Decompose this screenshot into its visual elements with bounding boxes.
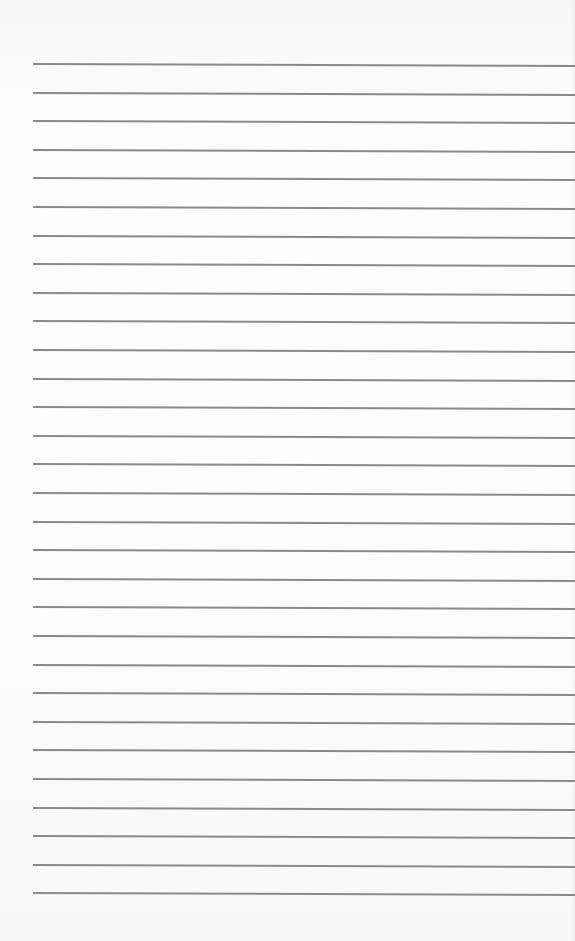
ruled-line: [33, 63, 575, 67]
ruled-line: [33, 235, 575, 239]
ruled-line: [33, 177, 575, 181]
ruled-line: [33, 664, 575, 668]
lined-paper-sheet: [0, 0, 575, 941]
ruled-line: [33, 835, 575, 839]
ruled-line: [33, 892, 575, 896]
ruled-line: [33, 692, 575, 696]
ruled-line: [33, 463, 575, 467]
ruled-line: [33, 778, 575, 782]
ruled-line: [33, 349, 575, 353]
ruled-line: [33, 721, 575, 725]
ruled-line: [33, 521, 575, 525]
ruled-line: [33, 635, 575, 639]
ruled-line: [33, 320, 575, 324]
ruled-line: [33, 263, 575, 267]
ruled-line: [33, 292, 575, 296]
ruled-line: [33, 406, 575, 410]
ruled-line: [33, 606, 575, 610]
ruled-line: [33, 492, 575, 496]
ruled-line: [33, 435, 575, 439]
ruled-line: [33, 864, 575, 868]
ruled-line: [33, 378, 575, 382]
ruled-line: [33, 206, 575, 210]
ruled-line: [33, 807, 575, 811]
ruled-line: [33, 120, 575, 124]
ruled-line: [33, 549, 575, 553]
ruled-line: [33, 92, 575, 96]
ruled-line: [33, 749, 575, 753]
ruled-line: [33, 149, 575, 153]
ruled-line: [33, 578, 575, 582]
